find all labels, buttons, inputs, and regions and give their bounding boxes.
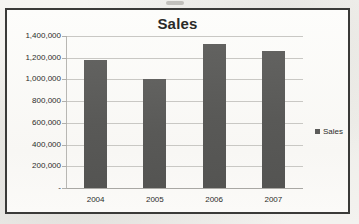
chart-frame-border: Sales 1,400,0001,200,0001,000,000800,000… [5,8,350,214]
y-tick-mark-1200000 [62,58,67,59]
chart-screenshot: Sales 1,400,0001,200,0001,000,000800,000… [0,0,359,224]
x-tick-label-2004: 2004 [76,195,116,204]
legend-entry-label: Sales [323,127,343,136]
y-tick-mark-800000 [62,101,67,102]
y-tick-label-600000: 600,000 [7,118,61,127]
x-tick-label-2005: 2005 [135,195,175,204]
gridline-1400000 [66,36,303,37]
bar-2004 [84,60,107,188]
y-tick-mark-1000000 [62,79,67,80]
y-tick-mark-200000 [62,166,67,167]
plot-area [66,36,303,188]
y-tick-label-400000: 400,000 [7,140,61,149]
chart-canvas: Sales 1,400,0001,200,0001,000,000800,000… [7,10,348,212]
chart-legend: Sales [315,127,343,136]
y-tick-label-0: - [7,183,61,192]
y-tick-mark-400000 [62,145,67,146]
bar-2006 [203,44,226,188]
gridline-0 [66,188,303,189]
y-tick-label-200000: 200,000 [7,161,61,170]
legend-swatch-icon [315,129,320,134]
y-tick-mark-0 [62,188,67,189]
bar-2007 [262,51,285,188]
y-tick-label-800000: 800,000 [7,96,61,105]
y-tick-mark-1400000 [62,36,67,37]
scan-artifact-mark [166,1,184,5]
y-tick-label-1000000: 1,000,000 [7,74,61,83]
x-tick-label-2007: 2007 [253,195,293,204]
y-tick-label-1400000: 1,400,000 [7,31,61,40]
x-tick-label-2006: 2006 [194,195,234,204]
bar-2005 [143,79,166,188]
y-tick-mark-600000 [62,123,67,124]
y-tick-label-1200000: 1,200,000 [7,53,61,62]
y-axis-tick-labels: 1,400,0001,200,0001,000,000800,000600,00… [7,10,61,212]
